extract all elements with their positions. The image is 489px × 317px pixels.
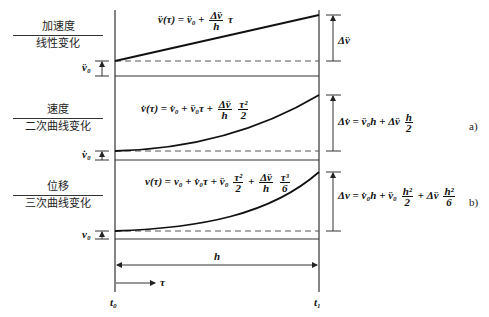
tau-label: τ: [160, 276, 165, 288]
t1-label: t₁: [314, 296, 321, 308]
initial-acceleration-label: v̈₀: [82, 61, 91, 73]
acceleration-formula: v̈(τ) = v̈₀ + Δv̈h τ: [158, 10, 233, 31]
delta-acceleration-label: Δv̈: [338, 34, 350, 46]
velocity-formula: v̇(τ) = v̇₀ + v̈₀τ + Δv̈h τ²2: [141, 99, 250, 120]
figure-tag-a: a): [469, 120, 478, 132]
interval-h-label: h: [214, 250, 220, 262]
panel-label-displacement: 位移 三次曲线变化: [13, 180, 103, 211]
panel-label-acceleration: 加速度 线性变化: [13, 20, 103, 51]
delta-displacement-label: Δv = v̇₀h + v̈₀ h²2 + Δv̈ h²6: [338, 186, 457, 207]
initial-velocity-label: v̇₀: [82, 148, 91, 160]
initial-displacement-label: v₀: [82, 228, 91, 240]
t0-label: t₀: [110, 296, 117, 308]
delta-velocity-label: Δv̇ = v̈₀h + Δv̈ h2: [338, 112, 415, 133]
panel-label-velocity: 速度 二次曲线变化: [13, 103, 103, 134]
figure-tag-b: b): [469, 196, 478, 208]
displacement-formula: v(τ) = v₀ + v̇₀τ + v̈₀ τ²2 + Δv̈h τ³6: [145, 172, 292, 193]
